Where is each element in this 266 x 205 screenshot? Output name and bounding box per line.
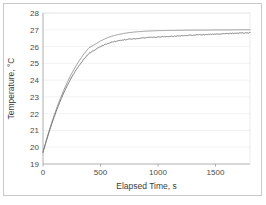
y-tick-label-26: 26 [30, 43, 39, 52]
y-tick-labels-group: 19202122232425262728 [30, 9, 39, 169]
x-tick-label-0: 0 [41, 168, 46, 177]
y-tick-label-20: 20 [30, 143, 39, 152]
y-tick-label-28: 28 [30, 9, 39, 18]
gridlines-group [43, 13, 250, 147]
line-chart: 19202122232425262728 050010001500 Elapse… [0, 0, 266, 205]
plot-frame [43, 13, 250, 164]
y-tick-label-25: 25 [30, 59, 39, 68]
data-series-group [43, 30, 250, 153]
series-line-measured [43, 32, 250, 152]
x-tick-label-1500: 1500 [207, 168, 225, 177]
y-tick-label-27: 27 [30, 26, 39, 35]
y-tick-label-22: 22 [30, 110, 39, 119]
series-line-model [43, 30, 250, 152]
chart-figure: 19202122232425262728 050010001500 Elapse… [0, 0, 266, 205]
y-tick-label-24: 24 [30, 76, 39, 85]
y-axis-title: Temperature, °C [6, 58, 16, 120]
x-axis-title: Elapsed Time, s [116, 181, 176, 191]
y-tick-label-19: 19 [30, 160, 39, 169]
y-tick-label-21: 21 [30, 126, 39, 135]
y-tick-label-23: 23 [30, 93, 39, 102]
x-tick-label-500: 500 [94, 168, 108, 177]
x-tick-labels-group: 050010001500 [41, 168, 225, 177]
x-tick-label-1000: 1000 [149, 168, 167, 177]
